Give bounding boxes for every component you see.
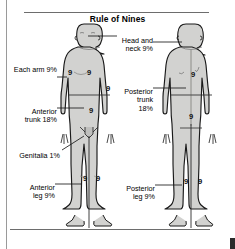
marker-anterior-left-leg: 9 <box>83 175 87 183</box>
label-anterior-leg: Anterior leg 9% <box>0 175 55 209</box>
marker-anterior-abdomen: 9 <box>89 107 93 115</box>
posterior-body-figure <box>163 24 216 228</box>
label-genitalia: Genitalia 1% <box>0 143 60 169</box>
label-each-arm: Each arm 9% <box>0 57 57 83</box>
marker-anterior-left-arm: 9 <box>68 69 72 77</box>
marker-posterior-left-leg: 9 <box>184 178 188 186</box>
rule-of-nines-figure: Rule of Nines <box>0 0 235 249</box>
marker-posterior-lower-back: 9 <box>189 113 193 121</box>
marker-anterior-chest: 9 <box>87 69 91 77</box>
marker-anterior-right-leg: 9 <box>96 175 100 183</box>
label-posterior-leg: Posterior leg 9% <box>100 176 155 210</box>
marker-posterior-right-leg: 9 <box>198 178 202 186</box>
label-anterior-trunk: Anterior trunk 18% <box>0 99 57 133</box>
marker-anterior-right-arm: 9 <box>106 85 110 93</box>
marker-posterior-upper-back: 9 <box>191 71 195 79</box>
label-posterior-trunk: Posterior trunk 18% <box>96 79 153 122</box>
label-head-and-neck: Head and neck 9% <box>96 28 153 62</box>
